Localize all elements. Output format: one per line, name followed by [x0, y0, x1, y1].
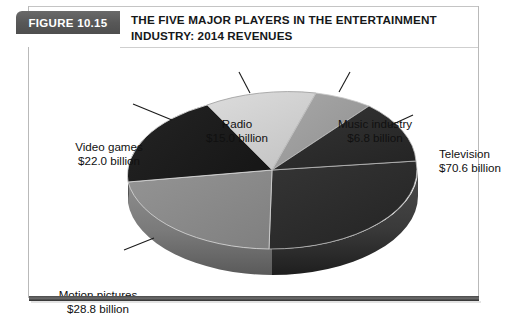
label-radio: Radio $15.0 billion — [189, 117, 285, 144]
label-video-games-value: $22.0 billion — [57, 154, 161, 168]
figure-title-line-1: THE FIVE MAJOR PLAYERS IN THE ENTERTAINM… — [131, 12, 471, 28]
frame-bottom-shadow — [31, 301, 481, 303]
label-television-name: Television — [439, 147, 505, 161]
leader-line-music — [339, 72, 350, 92]
leader-line-video-games — [133, 104, 172, 120]
label-music-industry-value: $6.8 billion — [321, 131, 429, 145]
pie-top-faces — [127, 92, 416, 249]
label-video-games: Video games $22.0 billion — [57, 140, 161, 167]
label-video-games-name: Video games — [57, 140, 161, 154]
figure-number-label: FIGURE 10.15 — [28, 17, 107, 29]
pie-chart-svg — [29, 48, 478, 296]
label-motion-pictures-value: $28.8 billion — [39, 302, 157, 316]
figure-title-line-2: INDUSTRY: 2014 REVENUES — [131, 28, 471, 44]
figure-title: THE FIVE MAJOR PLAYERS IN THE ENTERTAINM… — [131, 12, 471, 44]
pie-chart-area: Radio $15.0 billion Music industry $6.8 … — [29, 48, 478, 296]
label-music-industry-name: Music industry — [321, 117, 429, 131]
label-television: Television $70.6 billion — [439, 147, 505, 174]
label-music-industry: Music industry $6.8 billion — [321, 117, 429, 144]
figure-number-badge: FIGURE 10.15 — [16, 11, 120, 34]
label-radio-value: $15.0 billion — [189, 131, 285, 145]
leader-line-motion-pictures — [124, 238, 154, 250]
leader-line-radio — [239, 72, 250, 93]
label-radio-name: Radio — [189, 117, 285, 131]
frame-top-border — [28, 6, 479, 7]
badge-underline-spacer — [16, 34, 120, 47]
label-television-value: $70.6 billion — [439, 161, 505, 175]
